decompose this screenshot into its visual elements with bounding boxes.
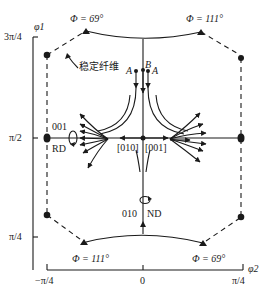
left-flow-fan [80, 114, 143, 168]
nd-axis-label: 010 [122, 208, 137, 219]
phi-label-bottom-left: Φ = 111° [72, 253, 109, 264]
phi-label-bottom-right: Φ = 69° [192, 253, 225, 264]
rd-dir-label: RD [52, 143, 66, 154]
x-axis [47, 264, 243, 270]
phi-label-top-left: Φ = 69° [70, 13, 103, 24]
y-axis [33, 37, 38, 270]
stable-point-bottom-left [44, 212, 51, 219]
nd-arrow-up [140, 221, 146, 227]
stable-point-top-right [238, 55, 244, 61]
top-right-triangle-marker [197, 29, 205, 35]
y-axis-label: φ1 [34, 21, 45, 32]
orientation-diagram: φ1 3π/4 π/2 π/4 −π/4 0 π/4 φ2 Φ = 69° Φ … [0, 0, 263, 294]
x-tick-neg-pi4: −π/4 [35, 275, 53, 286]
stable-fiber-label: 稳定纤维 [79, 60, 119, 72]
phi-label-top-right: Φ = 111° [186, 13, 223, 24]
top-arc [86, 31, 201, 38]
y-tick-pi2: π/2 [9, 132, 22, 143]
lower-curve-left [136, 150, 140, 172]
center-label-010: [010] [117, 142, 139, 153]
lower-curve-right [146, 150, 150, 172]
x-tick-pi4: π/4 [232, 275, 245, 286]
stable-point-top-left [44, 52, 51, 59]
annotation-leader [68, 56, 78, 68]
label-a-right: A [151, 65, 159, 76]
bottom-arc [86, 235, 203, 243]
stable-point-bottom-right [238, 214, 245, 221]
nd-dir-label: ND [147, 208, 161, 219]
y-tick-3pi4: 3π/4 [4, 31, 22, 42]
y-tick-pi4: π/4 [9, 231, 22, 242]
x-tick-0: 0 [140, 275, 145, 286]
bottom-right-triangle-marker [199, 240, 207, 246]
top-left-triangle-marker [82, 28, 90, 34]
center-label-001: [001] [145, 142, 167, 153]
label-a-left: A [125, 65, 133, 76]
x-axis-label: φ2 [248, 263, 259, 274]
rd-axis-label: 001 [52, 121, 67, 132]
label-b: B [145, 59, 151, 70]
